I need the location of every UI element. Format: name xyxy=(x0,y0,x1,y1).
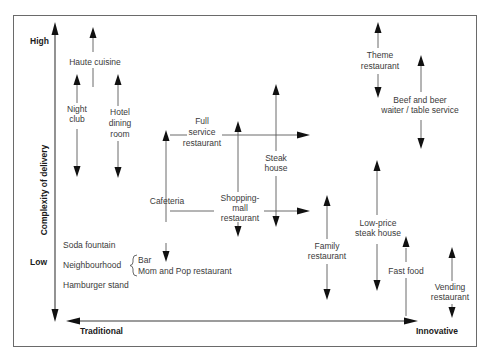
y-axis-high-label: High xyxy=(30,36,49,46)
low-price-steak-house-label-2: steak house xyxy=(355,228,401,238)
full-service-restaurant-label-1: Full xyxy=(195,116,209,126)
y-axis-low-label: Low xyxy=(30,257,47,267)
night-club-label-1: Night xyxy=(67,104,87,114)
hamburger-stand-label: Hamburger stand xyxy=(63,280,129,290)
night-club-arrow xyxy=(74,74,81,177)
steak-house-label-2: house xyxy=(264,163,287,173)
family-restaurant-label-1: Family xyxy=(314,241,340,251)
shopping-mall-restaurant-label-1: Shopping- xyxy=(221,193,260,203)
y-axis-down-arrowhead xyxy=(52,309,59,322)
vending-restaurant-label-1: Vending xyxy=(435,282,466,292)
x-axis-right-arrowhead xyxy=(404,318,418,325)
fast-food-arrow xyxy=(403,236,410,316)
x-axis xyxy=(66,318,418,325)
x-axis-left-arrowhead xyxy=(66,318,80,325)
fast-food-label: Fast food xyxy=(388,266,424,276)
x-axis-traditional-label: Traditional xyxy=(80,326,123,336)
neighbourhood-brace xyxy=(130,255,137,276)
shopping-mall-restaurant-label-3: restaurant xyxy=(221,213,260,223)
hotel-dining-room-label-1: Hotel xyxy=(110,107,130,117)
shopping-mall-restaurant-label-2: mall xyxy=(232,203,248,213)
soda-fountain-label: Soda fountain xyxy=(63,240,116,250)
theme-restaurant-arrow xyxy=(375,22,382,98)
hotel-dining-room-label-3: room xyxy=(110,129,129,139)
beef-and-beer-label-2: waiter / table service xyxy=(380,105,459,115)
hotel-dining-room-label-2: dining xyxy=(109,118,132,128)
y-axis xyxy=(52,22,59,322)
theme-restaurant-label-1: Theme xyxy=(367,50,394,60)
haute-cuisine-label: Haute cuisine xyxy=(69,57,121,67)
neighbourhood-label: Neighbourhood xyxy=(63,260,121,270)
theme-restaurant-label-2: restaurant xyxy=(361,61,400,71)
beef-and-beer-label-1: Beef and beer xyxy=(393,95,447,105)
vending-restaurant-label-2: restaurant xyxy=(431,292,470,302)
cafeteria-label: Cafeteria xyxy=(150,196,185,206)
night-club-label-2: club xyxy=(69,114,85,124)
restaurant-positioning-diagram: High Low Complexity of delivery Traditio… xyxy=(0,0,491,358)
y-axis-up-arrowhead xyxy=(52,22,59,35)
full-service-restaurant-label-3: restaurant xyxy=(183,138,222,148)
y-axis-title: Complexity of delivery xyxy=(39,144,49,235)
family-restaurant-label-2: restaurant xyxy=(308,251,347,261)
neighbourhood-type-bar: Bar xyxy=(138,255,151,265)
neighbourhood-type-mom-and-pop: Mom and Pop restaurant xyxy=(138,266,232,276)
x-axis-innovative-label: Innovative xyxy=(416,326,458,336)
full-service-restaurant-label-2: service xyxy=(189,127,216,137)
steak-house-label-1: Steak xyxy=(265,153,287,163)
low-price-steak-house-label-1: Low-price xyxy=(360,218,397,228)
